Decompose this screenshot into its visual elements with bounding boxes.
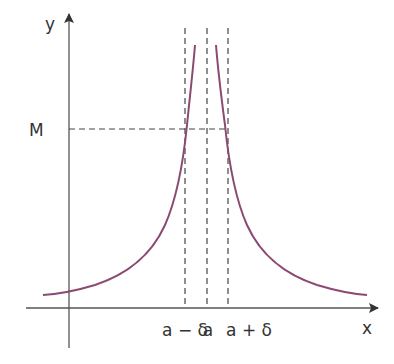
curve-right-branch [216,45,367,295]
curve-left-branch [43,45,195,295]
x-axis-label: x [362,318,372,338]
a-label: a [203,320,213,340]
diagram-canvas: y x M a − δ a a + δ [0,0,394,364]
m-label: M [29,120,44,140]
y-axis-label: y [45,14,55,34]
a-minus-delta-label: a − δ [162,320,208,340]
a-plus-delta-label: a + δ [226,320,272,340]
